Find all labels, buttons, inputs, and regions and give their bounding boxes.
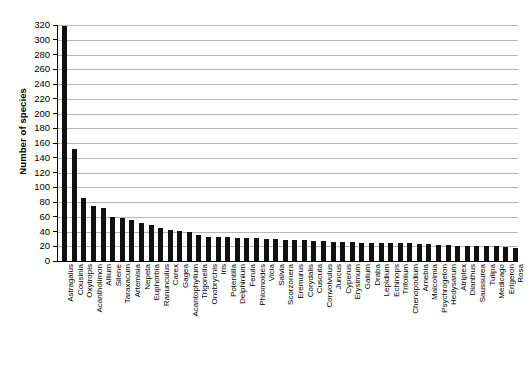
- x-tick-label: Arnebia: [422, 264, 430, 292]
- x-tick-label: Medicago: [498, 264, 506, 299]
- y-tick: 20: [39, 240, 57, 252]
- y-tick: 160: [34, 137, 57, 149]
- bar: [149, 225, 154, 261]
- y-tick: 100: [34, 181, 57, 193]
- x-tick-label: Carex: [172, 264, 180, 285]
- x-tick-label: Trifolium: [402, 264, 410, 294]
- x-tick-label: Erysimum: [354, 264, 362, 300]
- bar: [225, 237, 230, 261]
- x-tick-label: Artemisia: [134, 264, 142, 297]
- bar: [283, 240, 288, 261]
- x-tick-label: Cyperus: [345, 264, 353, 294]
- x-tick-label: Lepidium: [383, 264, 391, 296]
- bar: [417, 244, 422, 261]
- y-tick-label: 160: [34, 137, 53, 149]
- bar: [321, 241, 326, 261]
- bar: [398, 243, 403, 261]
- y-tick-label: 100: [34, 181, 53, 193]
- bar: [379, 243, 384, 261]
- bar: [407, 243, 412, 261]
- x-tick-label: Gagea: [182, 264, 190, 288]
- bar: [465, 246, 470, 261]
- x-tick-label: Silene: [115, 264, 123, 286]
- bar: [350, 242, 355, 261]
- y-tick: 120: [34, 167, 57, 179]
- bar: [254, 238, 259, 261]
- y-tick-label: 60: [39, 211, 53, 223]
- bar: [216, 237, 221, 261]
- x-tick-label: Rosa: [517, 264, 525, 283]
- bar: [120, 218, 125, 261]
- bar: [101, 208, 106, 261]
- y-tick-label: 200: [34, 108, 53, 120]
- x-tick-label: Draba: [374, 264, 382, 286]
- bar-series: [58, 25, 518, 261]
- bar: [494, 246, 499, 261]
- x-tick-label: Echinops: [393, 264, 401, 297]
- bar: [359, 243, 364, 261]
- bar: [455, 246, 460, 261]
- y-axis-ticks: 0204060801001201401601802002202402602803…: [0, 25, 57, 261]
- x-tick-label: Onobrychis: [211, 264, 219, 304]
- x-tick-label: Tulipa: [489, 264, 497, 286]
- x-tick-label: Phlomoides: [259, 264, 267, 306]
- x-tick-label: Saussurea: [479, 264, 487, 302]
- bar: [158, 228, 163, 261]
- y-tick-label: 120: [34, 167, 53, 179]
- x-tick-label: Scorzonera: [287, 264, 295, 305]
- y-tick-label: 0: [45, 255, 53, 267]
- y-tick: 180: [34, 122, 57, 134]
- x-tick-label: Salvia: [278, 264, 286, 286]
- x-tick-label: Cousinia: [77, 264, 85, 295]
- y-tick-label: 140: [34, 152, 53, 164]
- y-tick: 140: [34, 152, 57, 164]
- y-tick-label: 320: [34, 19, 53, 31]
- y-tick-label: 280: [34, 49, 53, 61]
- y-tick: 0: [45, 255, 57, 267]
- x-tick-label: Oxytropis: [86, 264, 94, 298]
- x-tick-label: Allium: [105, 264, 113, 286]
- x-tick-label: Trigonella: [201, 264, 209, 299]
- x-tick-label: Erigeron: [508, 264, 516, 294]
- y-tick-label: 240: [34, 78, 53, 90]
- x-tick-label: Atriplex: [460, 264, 468, 291]
- x-tick-label: Acantholimon: [96, 264, 104, 312]
- bar: [177, 231, 182, 261]
- bar: [273, 239, 278, 261]
- x-tick-label: Chenopodium: [412, 264, 420, 314]
- x-tick-label: Corydalis: [307, 264, 315, 297]
- y-tick: 40: [39, 226, 57, 238]
- bar: [168, 230, 173, 261]
- bar: [484, 246, 489, 261]
- bar: [72, 149, 77, 261]
- y-tick-label: 220: [34, 93, 53, 105]
- bar: [369, 243, 374, 261]
- bar: [235, 238, 240, 261]
- x-tick-label: Potentilla: [230, 264, 238, 297]
- x-tick-label: Hedysarum: [450, 264, 458, 305]
- y-tick-label: 300: [34, 34, 53, 46]
- bar: [503, 247, 508, 261]
- bar: [446, 245, 451, 261]
- y-tick: 220: [34, 93, 57, 105]
- plot-area: [57, 25, 518, 262]
- y-tick: 60: [39, 211, 57, 223]
- x-tick-label: Ranunculus: [163, 264, 171, 306]
- bar: [110, 217, 115, 261]
- x-tick-label: Acantophyllum: [192, 264, 200, 316]
- bar: [244, 238, 249, 261]
- bar: [426, 244, 431, 261]
- y-tick-label: 40: [39, 226, 53, 238]
- bar: [62, 26, 67, 261]
- x-tick-label: Malcolmia: [431, 264, 439, 300]
- x-axis-labels: AstragalusCousiniaOxytropisAcantholimonA…: [57, 264, 517, 364]
- bar: [81, 198, 86, 261]
- bar: [264, 239, 269, 261]
- bar: [331, 242, 336, 261]
- x-tick-label: Ferula: [249, 264, 257, 287]
- x-tick-label: Galium: [364, 264, 372, 289]
- y-tick: 240: [34, 78, 57, 90]
- bar: [292, 240, 297, 261]
- bar: [206, 237, 211, 261]
- bar: [129, 220, 134, 261]
